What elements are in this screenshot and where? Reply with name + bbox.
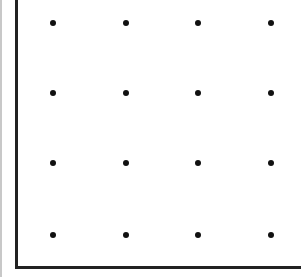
grid-dot — [50, 160, 56, 166]
grid-dot — [195, 20, 201, 26]
grid-dot — [268, 90, 274, 96]
grid-frame — [15, 0, 301, 269]
page-edge-line — [0, 0, 2, 277]
grid-dot — [50, 20, 56, 26]
grid-dot — [195, 232, 201, 238]
grid-dot — [123, 90, 129, 96]
grid-dot — [195, 90, 201, 96]
grid-dot — [195, 160, 201, 166]
grid-dot — [268, 232, 274, 238]
grid-dot — [268, 20, 274, 26]
grid-dot — [123, 232, 129, 238]
grid-dot — [123, 160, 129, 166]
grid-dot — [268, 160, 274, 166]
grid-dot — [50, 90, 56, 96]
grid-dot — [123, 20, 129, 26]
grid-dot — [50, 232, 56, 238]
